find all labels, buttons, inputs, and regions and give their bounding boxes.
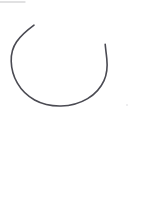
stray-speck-mark bbox=[126, 104, 128, 106]
drawing-canvas bbox=[0, 0, 145, 208]
drawing-surface bbox=[0, 0, 145, 208]
